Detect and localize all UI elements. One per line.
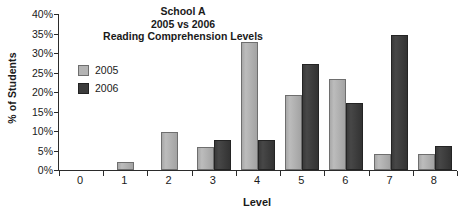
x-axis-tick-label: 4: [235, 174, 279, 186]
y-axis-tick-label: 15%: [32, 106, 53, 118]
x-axis-tick-mark: [457, 171, 458, 176]
bar-2006-level-5: [302, 64, 319, 170]
y-axis-tick-label: 10%: [32, 125, 53, 137]
bar-2005-level-7: [374, 154, 391, 170]
y-axis-tick-mark: [54, 92, 59, 93]
y-axis-tick-mark: [54, 73, 59, 74]
bar-group: [103, 14, 147, 170]
y-axis-tick-mark: [54, 53, 59, 54]
bar-2005-level-6: [329, 79, 346, 170]
bar-2006-level-8: [435, 146, 452, 170]
y-axis-title: % of Students: [1, 0, 23, 176]
y-axis-tick-label: 30%: [32, 47, 53, 59]
y-axis-tick-mark: [54, 34, 59, 35]
plot-area: [58, 14, 457, 171]
y-axis-tick-labels: 0%5%10%15%20%25%30%35%40%: [22, 8, 56, 172]
y-axis-tick-mark: [54, 131, 59, 132]
bar-2006-level-7: [391, 35, 408, 170]
bar-groups: [59, 14, 457, 170]
bar-group: [147, 14, 191, 170]
x-axis-tick-label: 5: [279, 174, 323, 186]
x-axis-tick-labels: 012345678: [58, 174, 456, 186]
x-axis-tick-label: 0: [58, 174, 102, 186]
bar-2005-level-8: [418, 154, 435, 170]
y-axis-tick-mark: [54, 14, 59, 15]
x-axis-tick-label: 1: [102, 174, 146, 186]
bar-2005-level-1: [117, 162, 134, 170]
y-axis-title-text: % of Students: [6, 52, 18, 123]
bar-2005-level-2: [161, 132, 178, 170]
y-axis-tick-mark: [54, 170, 59, 171]
bar-2005-level-3: [197, 147, 214, 170]
bar-chart: % of Students 0%5%10%15%20%25%30%35%40% …: [0, 0, 467, 217]
x-axis-tick-label: 2: [146, 174, 190, 186]
x-axis-tick-label: 8: [412, 174, 456, 186]
x-axis-tick-label: 6: [323, 174, 367, 186]
x-axis-tick-label: 3: [191, 174, 235, 186]
bar-group: [413, 14, 457, 170]
y-axis-tick-label: 40%: [32, 8, 53, 20]
y-axis-tick-mark: [54, 112, 59, 113]
bar-2006-level-6: [346, 103, 363, 170]
bar-group: [280, 14, 324, 170]
y-axis-tick-label: 5%: [38, 145, 53, 157]
bar-2005-level-4: [241, 42, 258, 170]
bar-group: [192, 14, 236, 170]
bar-group: [236, 14, 280, 170]
bar-group: [59, 14, 103, 170]
bar-2006-level-4: [258, 140, 275, 170]
bar-group: [324, 14, 368, 170]
y-axis-tick-label: 20%: [32, 86, 53, 98]
bar-group: [369, 14, 413, 170]
y-axis-tick-label: 0%: [38, 164, 53, 176]
y-axis-tick-label: 35%: [32, 28, 53, 40]
bar-2006-level-3: [214, 140, 231, 170]
x-axis-tick-label: 7: [368, 174, 412, 186]
x-axis-title: Level: [58, 196, 456, 208]
y-axis-tick-label: 25%: [32, 67, 53, 79]
y-axis-tick-mark: [54, 151, 59, 152]
bar-2005-level-5: [285, 95, 302, 170]
